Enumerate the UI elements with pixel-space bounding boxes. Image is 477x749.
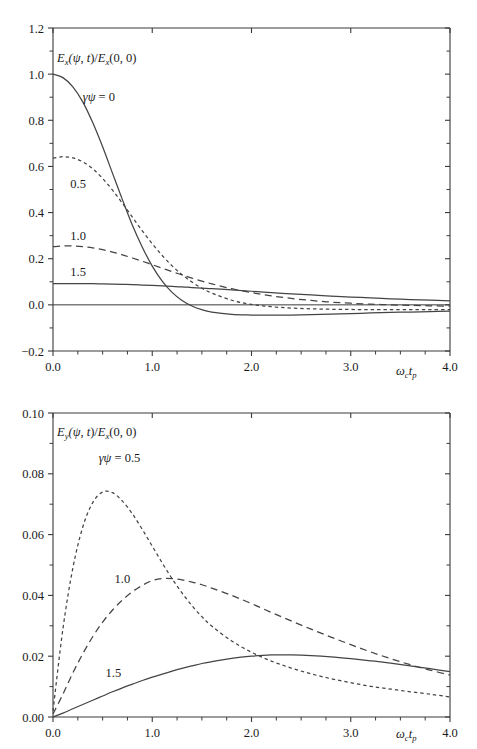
curve-label: 0.5 (70, 177, 86, 191)
y-tick-label: 0.02 (22, 650, 44, 664)
y-tick-label: 0.6 (28, 160, 44, 174)
top-x-axis-label: ωctp (396, 364, 417, 380)
curve-1.0 (53, 246, 450, 306)
x-tick-label: 4.0 (442, 360, 458, 374)
x-tick-label: 0.0 (45, 360, 61, 374)
curve-label: γψ = 0 (83, 90, 115, 104)
bottom-chart-svg: 0.000.020.040.060.080.10 0.01.02.03.04.0… (0, 388, 477, 749)
x-tick-label: 1.0 (144, 726, 160, 740)
bottom-y-axis-label: Ey(ψ, t)/Ex(0, 0) (56, 425, 136, 441)
bottom-curve-labels: γψ = 0.51.01.5 (99, 451, 141, 680)
top-y-tick-labels: −0.20.00.20.40.60.81.01.2 (21, 22, 44, 359)
curve-1.0 (53, 578, 450, 713)
y-tick-label: 0.4 (28, 206, 44, 220)
curve-0.5 (53, 157, 450, 310)
x-tick-label: 2.0 (244, 726, 260, 740)
y-tick-label: 0.2 (28, 252, 44, 266)
x-tick-label: 0.0 (45, 726, 61, 740)
curve-1.5 (53, 284, 450, 301)
x-tick-label: 1.0 (144, 360, 160, 374)
top-y-axis-label: Ex(ψ, t)/Ex(0, 0) (56, 51, 136, 67)
y-tick-label: 0.08 (22, 467, 44, 481)
x-tick-label: 2.0 (244, 360, 260, 374)
top-curves (53, 74, 450, 315)
curve-label: γψ = 0.5 (99, 451, 141, 465)
bottom-curves (53, 491, 450, 717)
y-tick-label: 1.2 (28, 22, 44, 36)
figure-root: −0.20.00.20.40.60.81.01.2 0.01.02.03.04.… (0, 0, 477, 749)
curve-label: 1.0 (115, 572, 131, 586)
chart-panel-top: −0.20.00.20.40.60.81.01.2 0.01.02.03.04.… (0, 0, 477, 388)
bottom-y-tick-labels: 0.000.020.040.060.080.10 (22, 407, 45, 725)
top-chart-svg: −0.20.00.20.40.60.81.01.2 0.01.02.03.04.… (0, 0, 477, 388)
top-y-major-ticks (48, 28, 450, 351)
curve--0 (53, 74, 450, 315)
curve-label: 1.0 (70, 229, 86, 243)
top-x-major-ticks (53, 28, 450, 356)
curve-1.5 (53, 655, 450, 717)
y-tick-label: 0.00 (22, 711, 44, 725)
curve-label: 1.5 (106, 666, 122, 680)
chart-panel-bottom: 0.000.020.040.060.080.10 0.01.02.03.04.0… (0, 388, 477, 749)
y-tick-label: 0.0 (28, 298, 44, 312)
x-tick-label: 4.0 (442, 726, 458, 740)
y-tick-label: 0.04 (22, 589, 45, 603)
x-tick-label: 3.0 (343, 360, 359, 374)
bottom-y-minor-ticks (50, 443, 451, 686)
curve-label: 1.5 (70, 265, 86, 279)
y-tick-label: −0.2 (21, 345, 44, 359)
bottom-x-axis-label: ωctp (396, 727, 417, 743)
y-tick-label: 0.8 (28, 114, 44, 128)
y-tick-label: 1.0 (28, 68, 44, 82)
x-tick-label: 3.0 (343, 726, 359, 740)
y-tick-label: 0.10 (22, 407, 44, 421)
y-tick-label: 0.06 (22, 528, 44, 542)
